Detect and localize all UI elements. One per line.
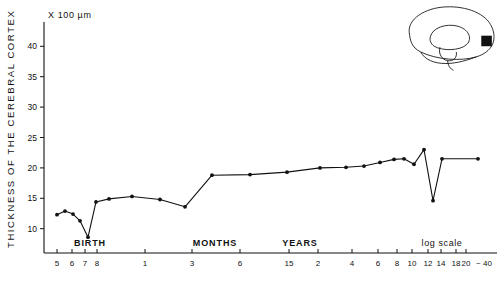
series-data-point: [86, 235, 90, 239]
x-tick-label: 1: [143, 259, 148, 268]
series-data-point: [344, 165, 348, 169]
era-label: BIRTH: [74, 238, 106, 248]
y-tick-label: 15: [28, 193, 38, 203]
x-tick-label: 8: [395, 259, 400, 268]
series-data-point: [412, 162, 416, 166]
y-tick-label: 35: [28, 72, 38, 82]
x-tick-label: 3: [190, 259, 195, 268]
y-tick-label: 40: [28, 41, 38, 51]
x-tick-label: 4: [350, 259, 355, 268]
series-data-point: [71, 212, 75, 216]
y-axis-unit-label: X 100 µm: [48, 10, 92, 20]
series-data-point: [158, 198, 162, 202]
series-data-point: [55, 213, 59, 217]
brain-outer-outline: [409, 7, 494, 60]
series-data-point: [431, 199, 435, 203]
x-tick-label: 2: [316, 259, 321, 268]
y-tick-label: 10: [28, 224, 38, 234]
series-data-point: [392, 157, 396, 161]
series-data-point: [285, 170, 289, 174]
x-tick-label: 18: [452, 259, 461, 268]
x-tick-label: ~ 40: [476, 259, 492, 268]
era-label: MONTHS: [193, 238, 237, 248]
series-data-point: [78, 219, 82, 223]
data-series-cortical-thickness: [55, 148, 480, 239]
y-tick-label: 20: [28, 163, 38, 173]
era-label-group: BIRTHMONTHSYEARS: [74, 238, 318, 248]
x-tick-label: 14: [437, 259, 446, 268]
x-tick-label: 15: [285, 259, 294, 268]
y-tick-label: 25: [28, 133, 38, 143]
series-data-point: [378, 161, 382, 165]
x-tick-label: 5: [55, 259, 60, 268]
y-tick-label: 30: [28, 102, 38, 112]
series-data-point: [130, 195, 134, 199]
series-data-point: [476, 157, 480, 161]
series-data-point: [440, 157, 444, 161]
series-data-point: [318, 166, 322, 170]
era-label: YEARS: [282, 238, 318, 248]
sagittal-brain-diagram: [409, 7, 494, 70]
log-scale-note: log scale: [422, 238, 463, 248]
series-data-point: [63, 209, 67, 213]
x-tick-label: 6: [238, 259, 243, 268]
series-data-point: [362, 164, 366, 168]
cortical-thickness-figure: THICKNESS OF THE CEREBRAL CORTEX X 100 µ…: [0, 0, 500, 285]
x-tick-group: 56781361524681012141820~ 40: [55, 249, 493, 268]
series-data-point: [402, 157, 406, 161]
x-tick-label: 7: [83, 259, 88, 268]
series-data-point: [107, 197, 111, 201]
series-data-point: [94, 200, 98, 204]
x-tick-label: 12: [424, 259, 433, 268]
x-tick-label: 20: [462, 259, 471, 268]
series-data-point: [183, 205, 187, 209]
y-tick-group: 10152025303540: [28, 41, 44, 233]
series-data-point: [210, 173, 214, 177]
x-tick-label: 6: [376, 259, 381, 268]
y-axis-title: THICKNESS OF THE CEREBRAL CORTEX: [5, 10, 16, 248]
chart-canvas: THICKNESS OF THE CEREBRAL CORTEX X 100 µ…: [0, 0, 500, 285]
occipital-cortex-marker: [481, 36, 492, 47]
medulla-outline: [448, 61, 454, 71]
brain-temporal-outline: [421, 52, 477, 64]
x-tick-label: 10: [408, 259, 417, 268]
series-data-point: [248, 173, 252, 177]
corpus-callosum-outline: [430, 25, 469, 49]
series-data-point: [422, 148, 426, 152]
x-tick-label: 6: [70, 259, 75, 268]
x-tick-label: 8: [95, 259, 100, 268]
